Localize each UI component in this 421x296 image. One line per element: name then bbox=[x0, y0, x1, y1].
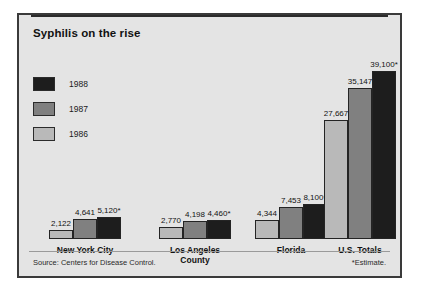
bar-value-label: 39,100* bbox=[363, 60, 405, 69]
chart-figure: Syphilis on the rise 198819871986 2,1224… bbox=[17, 13, 402, 278]
category-label-u-s-totals: U.S. Totals bbox=[306, 245, 414, 255]
bar-1987-los-angeles-county bbox=[183, 221, 207, 239]
bar-1986-u-s-totals bbox=[324, 120, 348, 239]
bar-value-label: 5,120* bbox=[88, 206, 130, 215]
bar-1988-u-s-totals bbox=[372, 71, 396, 239]
bar-value-label: 4,460* bbox=[198, 209, 240, 218]
bar-1987-new-york-city bbox=[73, 219, 97, 239]
source-note: Source: Centers for Disease Control. bbox=[33, 258, 156, 267]
plot-area: 2,1224,6415,120*New York City2,7704,1984… bbox=[19, 15, 400, 276]
bar-1986-new-york-city bbox=[49, 230, 73, 239]
bar-1988-new-york-city bbox=[97, 217, 121, 239]
bar-1986-florida bbox=[255, 220, 279, 239]
bar-1986-los-angeles-county bbox=[159, 227, 183, 239]
category-label-new-york-city: New York City bbox=[31, 245, 139, 255]
bar-1987-florida bbox=[279, 207, 303, 239]
bar-1987-u-s-totals bbox=[348, 88, 372, 239]
footer-divider bbox=[29, 251, 390, 252]
axis-baseline bbox=[31, 15, 388, 17]
category-label-los-angeles-county: Los Angeles County bbox=[141, 245, 249, 265]
bar-1988-los-angeles-county bbox=[207, 220, 231, 239]
estimate-note: *Estimate. bbox=[352, 258, 386, 267]
